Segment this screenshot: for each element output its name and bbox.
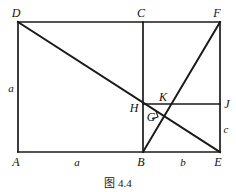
segment-B-F — [143, 22, 220, 152]
label-B: B — [137, 156, 144, 168]
seg-label-a-left: a — [8, 83, 14, 94]
label-K: K — [159, 91, 167, 103]
seg-label-b-bottom: b — [180, 157, 186, 168]
seg-label-a-bottom: a — [74, 157, 80, 168]
figure-caption: 图 4.4 — [0, 174, 236, 190]
geometry-diagram — [0, 0, 236, 192]
segment-D-E — [18, 22, 220, 152]
label-F: F — [213, 7, 220, 19]
label-C: C — [137, 7, 145, 19]
label-E: E — [214, 156, 221, 168]
seg-label-c-right: c — [224, 124, 229, 135]
label-A: A — [12, 156, 19, 168]
label-G: G — [147, 111, 156, 123]
label-H: H — [130, 102, 139, 114]
segments-group — [18, 22, 220, 152]
label-D: D — [12, 7, 21, 19]
label-J: J — [224, 98, 229, 110]
figure-container: D C F A B E H J K G a a b c 图 4.4 — [0, 0, 236, 192]
